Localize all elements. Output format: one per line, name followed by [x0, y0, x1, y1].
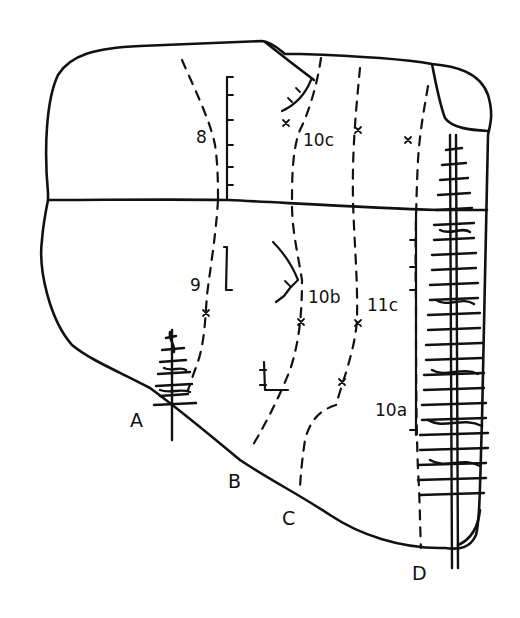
roof-flake: [265, 42, 314, 80]
corner-9: [224, 247, 232, 290]
ledge-line: [48, 200, 487, 210]
ledge-10b: [260, 362, 288, 390]
grade-label-10a: 10a: [375, 400, 407, 420]
start-label-a: A: [130, 409, 143, 431]
route-10b-10c: 10c 10b: [250, 58, 340, 450]
grade-label-11c: 11c: [367, 295, 398, 315]
flake-top-right: [432, 64, 488, 131]
climbing-topo-diagram: 8 9 10c 10b 11c 10a: [0, 0, 520, 618]
grade-label-10c: 10c: [303, 130, 334, 150]
route-10a: 10a: [375, 86, 428, 548]
start-label-c: C: [282, 507, 295, 529]
grade-label-10b: 10b: [308, 287, 340, 307]
tree-base-curve: [458, 510, 480, 545]
corner-10b: [273, 242, 298, 302]
route-8: 8: [182, 60, 233, 200]
grade-label-8: 8: [196, 127, 207, 147]
tree-icon-small: [154, 330, 196, 440]
grade-label-9: 9: [190, 275, 201, 295]
roof-arch: [282, 80, 311, 111]
start-labels: A B C D: [130, 409, 427, 584]
rock-outline: [41, 41, 491, 549]
start-label-d: D: [412, 562, 427, 584]
tree-icon-tall: [418, 135, 488, 568]
start-label-b: B: [228, 470, 241, 492]
route-9: 9: [188, 200, 232, 390]
